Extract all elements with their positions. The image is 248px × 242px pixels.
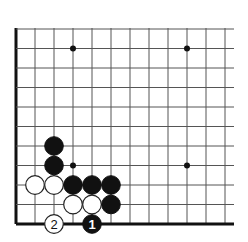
white-stone xyxy=(64,195,83,214)
black-stone xyxy=(45,137,64,156)
black-stone xyxy=(64,176,83,195)
star-point-icon xyxy=(184,163,190,169)
black-stone xyxy=(102,195,121,214)
white-stone xyxy=(83,195,102,214)
black-stone xyxy=(102,176,121,195)
move-number: 2 xyxy=(50,217,57,232)
white-stone: 2 xyxy=(45,215,64,234)
black-stone: 1 xyxy=(83,215,102,234)
go-board: 21 xyxy=(0,0,248,242)
white-stone xyxy=(26,176,45,195)
board-grid xyxy=(16,28,234,224)
move-number: 1 xyxy=(88,217,95,232)
white-stone xyxy=(45,176,64,195)
black-stone xyxy=(83,176,102,195)
black-stone xyxy=(45,156,64,175)
star-point-icon xyxy=(70,46,76,52)
star-point-icon xyxy=(70,163,76,169)
star-point-icon xyxy=(184,46,190,52)
